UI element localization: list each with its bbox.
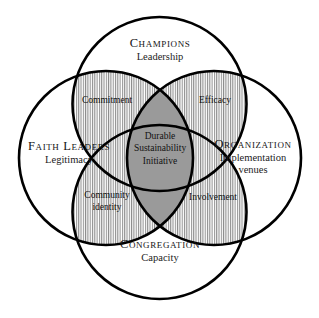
venn-diagram: Champions Leadership Faith Leaders Legit… bbox=[0, 0, 319, 318]
center-lens-fill bbox=[0, 0, 319, 318]
venn-canvas bbox=[0, 0, 319, 318]
